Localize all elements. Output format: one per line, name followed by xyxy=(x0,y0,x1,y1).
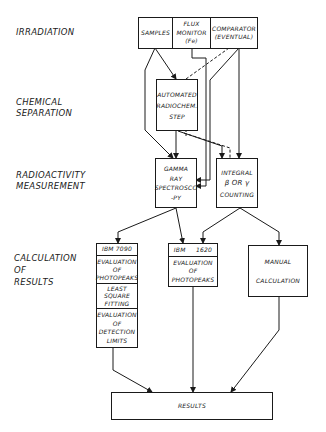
row-text: OF xyxy=(189,267,198,276)
integral-label: INTEGRAL xyxy=(221,167,253,178)
comparator-cell: COMPARATOR (EVENTUAL) xyxy=(211,18,257,48)
row-text: OF xyxy=(113,266,122,274)
manual-calculation-box: MANUAL CALCULATION xyxy=(248,245,308,297)
gamma-label: GAMMA xyxy=(164,164,188,174)
row-text: PHOTOPEAKS xyxy=(172,276,215,285)
counting-label: COUNTING xyxy=(220,189,254,200)
row-text: DETECTION xyxy=(99,328,136,337)
spectrosco-label: SPECTROSCO xyxy=(155,183,198,193)
ray-label: RAY xyxy=(170,174,183,184)
ibm-7090-header: IBM 7090 xyxy=(97,244,137,256)
step-label: STEP xyxy=(169,111,185,122)
flux-monitor-cell: FLUX MONITOR (Fe) xyxy=(173,18,211,48)
eventual-label: (EVENTUAL) xyxy=(215,33,253,42)
ibm-1620-photopeaks-row: EVALUATION OF PHOTOPEAKS xyxy=(169,257,217,286)
row-text: OF xyxy=(113,320,122,329)
row-text: EVALUATION xyxy=(97,311,137,320)
ibm-7090-box: IBM 7090 EVALUATION OF PHOTOPEAKS LEAST … xyxy=(96,243,138,348)
row-text: EVALUATION xyxy=(173,259,213,268)
row-text: LIMITS xyxy=(107,337,128,346)
row-text: SQUARE xyxy=(104,292,130,300)
automated-label: AUTOMATED xyxy=(157,89,197,100)
monitor-label: MONITOR xyxy=(176,29,206,38)
radiochem-label: RADIOCHEM. xyxy=(157,100,198,111)
manual-label: MANUAL xyxy=(265,252,292,271)
py-label: -PY xyxy=(171,193,181,203)
row-text: PHOTOPEAKS xyxy=(96,274,139,282)
gamma-ray-spectroscopy-box: GAMMA RAY SPECTROSCO -PY xyxy=(155,158,197,208)
fe-label: (Fe) xyxy=(185,37,198,46)
ibm-7090-label: IBM 7090 xyxy=(102,245,132,254)
samples-cell: SAMPLES xyxy=(139,18,173,48)
row-text: EVALUATION xyxy=(97,258,137,266)
comparator-label: COMPARATOR xyxy=(212,25,256,34)
calculation-label: CALCULATION xyxy=(256,271,300,290)
results-box: RESULTS xyxy=(111,392,273,420)
irradiation-box: SAMPLES FLUX MONITOR (Fe) COMPARATOR (EV… xyxy=(138,17,258,49)
ibm-7090-photopeaks-row: EVALUATION OF PHOTOPEAKS xyxy=(97,256,137,284)
row-text: FITTING xyxy=(105,300,130,308)
connector-lines xyxy=(0,0,326,432)
ibm-7090-detection-limits-row: EVALUATION OF DETECTION LIMITS xyxy=(97,309,137,347)
automated-radiochem-step-box: AUTOMATED RADIOCHEM. STEP xyxy=(156,79,198,131)
ibm-1620-box: IBM 1620 EVALUATION OF PHOTOPEAKS xyxy=(168,243,218,287)
flux-label: FLUX xyxy=(183,20,199,29)
beta-gamma-label: β OR γ xyxy=(225,178,250,189)
integral-counting-box: INTEGRAL β OR γ COUNTING xyxy=(216,158,258,208)
ibm-1620-header: IBM 1620 xyxy=(169,244,217,257)
results-label: RESULTS xyxy=(178,402,206,411)
ibm-1620-label: IBM 1620 xyxy=(174,246,212,255)
ibm-7090-least-square-row: LEAST SQUARE FITTING xyxy=(97,284,137,309)
row-text: LEAST xyxy=(107,285,127,293)
samples-label: SAMPLES xyxy=(141,29,170,38)
